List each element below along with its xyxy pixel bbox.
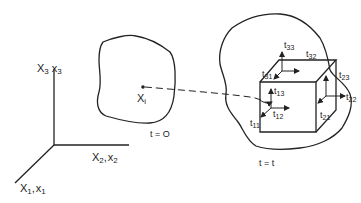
material-point-label: Xi	[137, 92, 146, 106]
stress-label-t32: t32	[306, 49, 316, 60]
x1-axis-label: X1,x1	[20, 182, 46, 196]
material-point-dot	[141, 85, 145, 89]
motion-path	[145, 87, 268, 103]
x3-axis-label: X3x3	[37, 62, 62, 76]
stress-label-t11: t11	[250, 118, 260, 129]
continuum-mechanics-diagram: X3x3 X2,x2 X1,x1 Xi t = O t33	[0, 0, 361, 203]
initial-time-label: t = O	[150, 129, 170, 139]
deformed-time-label: t = t	[259, 158, 275, 168]
stress-label-t21: t21	[320, 110, 330, 121]
stress-label-t23: t23	[339, 70, 349, 81]
coordinate-axes	[15, 69, 129, 183]
motion-path-arrow	[260, 100, 272, 103]
stress-labels: t33 t32 t31 t23 t22 t21 t13 t12 t11	[250, 40, 356, 129]
top-face-arrows	[274, 52, 299, 79]
stress-label-t22: t22	[346, 92, 356, 103]
cube-front-face	[260, 82, 316, 132]
stress-label-t33: t33	[284, 40, 294, 51]
x1-axis	[15, 145, 54, 183]
stress-label-t31: t31	[262, 69, 272, 80]
stress-label-t12: t12	[273, 109, 283, 120]
initial-body-outline	[97, 35, 175, 123]
stress-label-t13: t13	[274, 86, 284, 97]
x2-axis-label: X2,x2	[92, 151, 118, 165]
